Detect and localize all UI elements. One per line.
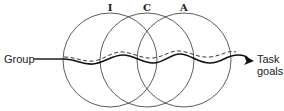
circle-i [63,13,157,107]
task-label: Task [257,53,280,65]
circle-label-a: A [179,2,188,13]
circle-c [100,13,194,107]
circle-a [137,13,231,107]
group-task-diagram: I C A Group Task goals [0,0,284,111]
dashed-path [64,51,236,61]
group-label: Group [4,53,35,65]
goals-label: goals [257,65,284,77]
circle-label-c: C [143,2,151,13]
circle-label-i: I [108,2,113,13]
arrow-head-icon [244,56,254,66]
